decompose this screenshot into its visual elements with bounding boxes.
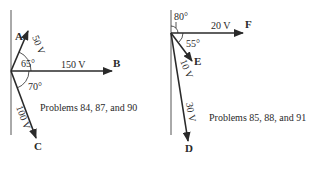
caption-right: Problems 85, 88, and 91 [209,112,306,123]
angle-55-label: 55° [186,38,200,49]
angle-arc-55 [179,33,183,42]
diagram-right: F 20 V E 10 V D 30 V 80° 55° Problems 85… [171,10,306,154]
vector-diagrams: A 50 V B 150 V C 100 V 65° 70° Problems … [0,0,320,169]
diagram-left: A 50 V B 150 V C 100 V 65° 70° Problems … [11,10,137,152]
angle-arc-80 [171,26,178,33]
vector-d-magnitude: 30 V [184,101,198,123]
caption-left: Problems 84, 87, and 90 [40,102,137,113]
vector-d-label: D [185,142,193,154]
vector-a-magnitude: 50 V [30,34,48,57]
vector-d-arrow [171,33,188,141]
vector-c-label: C [34,140,42,152]
angle-70-label: 70° [28,81,42,92]
vector-a-label: A [15,30,23,42]
angle-65-label: 65° [21,58,35,69]
vector-b-magnitude: 150 V [61,59,86,70]
vector-e-label: E [194,55,201,67]
angle-80-label: 80° [174,11,188,22]
vector-b-label: B [113,57,121,69]
vector-c-magnitude: 100 V [14,104,33,132]
vector-f-label: F [245,18,252,30]
vector-f-magnitude: 20 V [211,20,231,31]
